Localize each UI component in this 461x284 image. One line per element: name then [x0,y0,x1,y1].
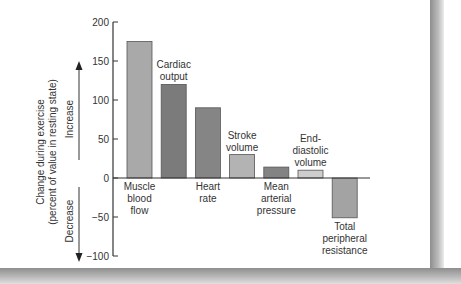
arrow-down-icon [76,253,83,262]
y-tick-label: 200 [92,17,109,28]
category-label: Meanarterialpressure [257,181,296,216]
category-label: End-diastolicvolume [292,133,328,168]
y-tick-label: 0 [103,173,109,184]
category-label: Musclebloodflow [124,181,156,216]
increase-label: Increase [64,99,75,138]
y-axis-title: Change during exercise [35,99,46,205]
y-tick-label: −100 [86,251,109,262]
y-axis-subtitle: (percent of value in resting state) [47,79,58,225]
y-tick-label: 100 [92,95,109,106]
decrease-label: Decrease [64,199,75,242]
y-tick-label: 50 [98,134,110,145]
arrow-up-icon [76,61,83,70]
bar-chart: 200150100500−50−100MusclebloodflowCardia… [0,0,461,284]
bar [195,108,220,178]
bar [298,170,323,178]
bar [127,42,152,179]
category-label: Strokevolume [226,130,259,153]
category-label: Cardiacoutput [156,59,190,82]
category-label: Heartrate [196,181,221,204]
bar [161,84,186,178]
y-tick-label: −50 [92,212,109,223]
category-label: Totalperipheralresistance [322,221,368,256]
bar [332,178,357,218]
bar [230,155,255,178]
bar [264,167,289,178]
y-tick-label: 150 [92,56,109,67]
